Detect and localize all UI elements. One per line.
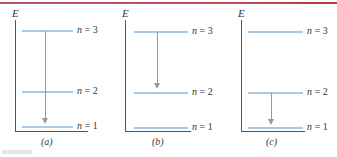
- level-label-n3: n = 3: [192, 25, 213, 36]
- arrow-down-icon: [154, 83, 160, 89]
- level-label-n1: n = 1: [77, 120, 98, 131]
- energy-axis: [15, 20, 16, 131]
- energy-axis: [241, 20, 242, 131]
- panel-label-a: (a): [41, 136, 53, 147]
- energy-level-n1: [248, 127, 303, 129]
- energy-level-n2: [248, 92, 303, 94]
- baseline-axis: [15, 131, 88, 132]
- energy-axis-label: E: [122, 7, 129, 19]
- energy-axis-label: E: [238, 7, 245, 19]
- energy-level-n1: [22, 126, 73, 128]
- energy-level-n3: [134, 31, 188, 33]
- baseline-axis: [241, 131, 305, 132]
- caption-fragment: [2, 150, 32, 154]
- energy-level-n2: [22, 91, 73, 93]
- energy-level-n2: [134, 92, 188, 94]
- level-label-n3: n = 3: [307, 25, 328, 36]
- energy-level-n1: [134, 127, 188, 129]
- panel-label-c: (c): [266, 136, 277, 147]
- energy-level-n3: [248, 31, 303, 33]
- arrow-down-icon: [42, 118, 48, 124]
- energy-axis: [125, 20, 126, 131]
- level-label-n1: n = 1: [307, 121, 328, 132]
- panel-label-b: (b): [152, 136, 164, 147]
- level-label-n2: n = 2: [77, 85, 98, 96]
- energy-level-n3: [22, 30, 73, 32]
- level-label-n3: n = 3: [77, 24, 98, 35]
- transition-arrow-shaft: [271, 93, 272, 120]
- arrow-down-icon: [268, 119, 274, 125]
- level-label-n1: n = 1: [192, 121, 213, 132]
- transition-arrow-shaft: [45, 31, 46, 119]
- top-rule: [0, 2, 337, 4]
- energy-axis-label: E: [12, 7, 19, 19]
- level-label-n2: n = 2: [307, 86, 328, 97]
- level-label-n2: n = 2: [192, 86, 213, 97]
- transition-arrow-shaft: [157, 32, 158, 84]
- baseline-axis: [125, 131, 191, 132]
